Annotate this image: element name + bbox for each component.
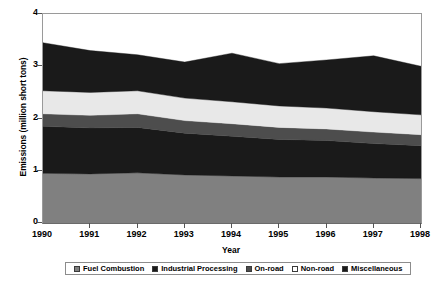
legend-swatch-icon [246,266,252,272]
legend-item-miscellaneous[interactable]: Miscellaneous [342,265,402,273]
y-tick-label-0: 0 [24,217,38,226]
legend-item-label: Industrial Processing [161,265,237,273]
x-tick-label-1991: 1991 [67,230,111,239]
plot-area [42,13,422,224]
legend-item-label: Miscellaneous [351,265,402,273]
x-tickmark-1997 [373,223,374,228]
x-tick-label-1994: 1994 [209,230,253,239]
stacked-area-series [43,14,421,223]
y-tick-label-3: 3 [24,60,38,69]
legend-swatch-icon [292,266,298,272]
x-tick-label-1995: 1995 [256,230,300,239]
y-tickmark-2 [37,118,42,119]
y-tickmark-3 [37,65,42,66]
y-tick-label-2: 2 [24,113,38,122]
legend-item-fuel-combustion[interactable]: Fuel Combustion [74,265,144,273]
emissions-stacked-area-chart: Emissions (million short tons) 01234 199… [0,0,439,282]
x-tick-label-1993: 1993 [162,230,206,239]
x-tickmark-1995 [278,223,279,228]
x-tickmark-1991 [89,223,90,228]
legend-item-label: Non-road [301,265,334,273]
legend-item-on-road[interactable]: On-road [246,265,284,273]
x-tickmark-1996 [326,223,327,228]
x-axis-title: Year [42,245,420,255]
legend-swatch-icon [342,266,348,272]
y-tick-label-4: 4 [24,8,38,17]
x-tick-label-1998: 1998 [398,230,439,239]
x-tickmark-1993 [184,223,185,228]
x-tickmark-1998 [420,223,421,228]
legend-item-label: Fuel Combustion [83,265,144,273]
x-tick-label-1996: 1996 [304,230,348,239]
x-tick-label-1997: 1997 [351,230,395,239]
x-tick-label-1990: 1990 [20,230,64,239]
y-tickmark-1 [37,170,42,171]
legend-item-label: On-road [255,265,284,273]
x-tickmark-1994 [231,223,232,228]
legend-swatch-icon [152,266,158,272]
y-tickmark-4 [37,13,42,14]
y-tick-label-1: 1 [24,165,38,174]
legend-item-industrial-processing[interactable]: Industrial Processing [152,265,237,273]
y-tickmark-0 [37,222,42,223]
chart-legend: Fuel CombustionIndustrial ProcessingOn-r… [65,262,411,275]
legend-swatch-icon [74,266,80,272]
y-axis-ticks: 01234 [20,0,38,282]
x-tickmark-1992 [137,223,138,228]
area-series-fuel-combustion [43,173,421,223]
legend-item-non-road[interactable]: Non-road [292,265,334,273]
x-tick-label-1992: 1992 [115,230,159,239]
